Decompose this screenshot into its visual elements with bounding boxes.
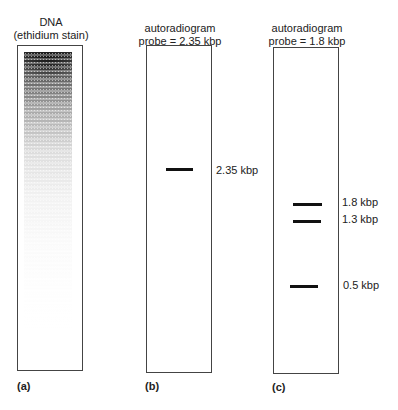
lane-b-autoradiogram [146, 45, 212, 373]
band-2-35-kbp [166, 168, 193, 171]
panel-a-title: DNA (ethidium stain) [5, 16, 97, 42]
lane-a-dna-smear [17, 45, 83, 371]
panel-c-title-line1: autoradiogram [257, 22, 357, 35]
panel-c-title: autoradiogram probe = 1.8 kbp [257, 22, 357, 48]
dna-smear [24, 52, 72, 330]
smear-grain-texture [24, 52, 72, 330]
panel-c-label: (c) [272, 381, 285, 393]
panel-b-label: (b) [145, 380, 159, 392]
band-label-0-5-kbp: 0.5 kbp [343, 279, 379, 291]
lane-c-autoradiogram [273, 47, 339, 374]
panel-b-title-line1: autoradiogram [130, 22, 230, 35]
band-label-1-3-kbp: 1.3 kbp [342, 213, 378, 225]
panel-a-label: (a) [17, 380, 30, 392]
panel-a-title-line1: DNA [5, 16, 97, 29]
band-label-1-8-kbp: 1.8 kbp [342, 196, 378, 208]
panel-a-title-line2: (ethidium stain) [5, 29, 97, 42]
band-label-2-35-kbp: 2.35 kbp [216, 164, 258, 176]
band-0-5-kbp [290, 285, 318, 288]
band-1-3-kbp [293, 220, 321, 223]
band-1-8-kbp [293, 203, 322, 206]
